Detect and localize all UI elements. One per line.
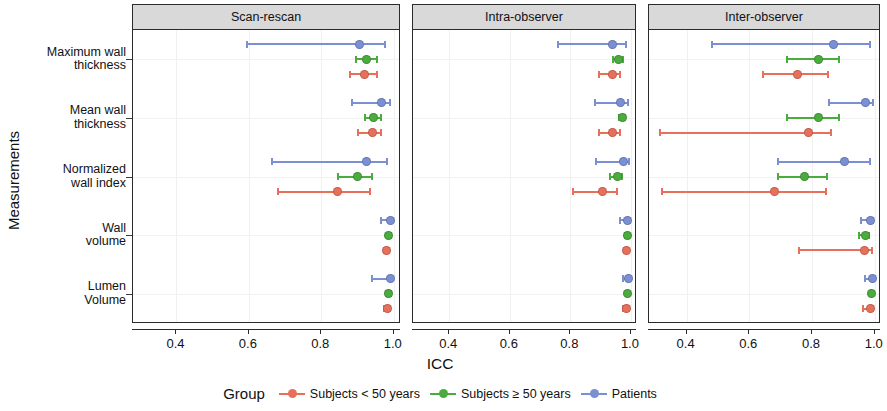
x-axis-line (132, 329, 400, 330)
data-point-marker[interactable] (622, 246, 631, 255)
confidence-interval-cap (364, 114, 366, 121)
confidence-interval-cap (777, 158, 779, 165)
data-point-marker[interactable] (829, 40, 838, 49)
confidence-interval-cap (762, 71, 764, 78)
panel-title-text: Intra-observer (485, 10, 563, 24)
data-point-marker[interactable] (384, 231, 393, 240)
data-point-marker[interactable] (793, 70, 802, 79)
data-point-marker[interactable] (384, 289, 393, 298)
data-point-marker[interactable] (814, 113, 823, 122)
y-axis-tick-label: LumenVolume (26, 280, 126, 307)
confidence-interval-cap (826, 173, 828, 180)
confidence-interval-cap (860, 217, 862, 224)
legend-key-icon (581, 389, 607, 399)
confidence-interval-cap (661, 188, 663, 195)
data-point-marker[interactable] (616, 98, 625, 107)
x-axis-tick-label: 1.0 (373, 336, 413, 351)
x-axis-tick-label: 0.6 (728, 336, 768, 351)
x-axis-line (412, 329, 636, 330)
confidence-interval-cap (838, 56, 840, 63)
data-point-marker[interactable] (377, 98, 386, 107)
confidence-interval-cap (386, 158, 388, 165)
confidence-interval-cap (711, 41, 713, 48)
data-point-marker[interactable] (619, 157, 628, 166)
confidence-interval-line (278, 191, 370, 193)
data-point-marker[interactable] (622, 304, 631, 313)
x-axis-tick-label: 0.6 (489, 336, 529, 351)
data-point-marker[interactable] (383, 304, 392, 313)
data-point-marker[interactable] (355, 40, 364, 49)
data-point-marker[interactable] (861, 98, 870, 107)
confidence-interval-cap (380, 129, 382, 136)
legend-item[interactable]: Subjects ≥ 50 years (430, 387, 571, 401)
x-axis-tick (686, 329, 687, 334)
x-axis-tick-label: 0.4 (428, 336, 468, 351)
confidence-interval-cap (380, 114, 382, 121)
x-axis-tick (748, 329, 749, 334)
data-point-marker[interactable] (362, 157, 371, 166)
confidence-interval-cap (355, 56, 357, 63)
data-point-marker[interactable] (382, 246, 391, 255)
x-axis-tick (175, 329, 176, 334)
x-axis-tick-label: 0.8 (300, 336, 340, 351)
panel-intra-observer: Intra-observer (412, 4, 636, 323)
panel-plot-area (132, 30, 400, 323)
confidence-interval-cap (371, 173, 373, 180)
data-point-marker[interactable] (386, 216, 395, 225)
data-point-marker[interactable] (608, 70, 617, 79)
x-axis-tick (448, 329, 449, 334)
confidence-interval-cap (595, 158, 597, 165)
data-point-marker[interactable] (868, 274, 877, 283)
panel-inter-observer: Inter-observer (648, 4, 880, 323)
x-axis-title-text: ICC (427, 355, 454, 372)
legend-item-label: Subjects ≥ 50 years (461, 387, 571, 401)
data-point-marker[interactable] (360, 70, 369, 79)
data-point-marker[interactable] (623, 231, 632, 240)
gridline-horizontal (133, 235, 399, 236)
confidence-interval-cap (825, 188, 827, 195)
confidence-interval-cap (376, 56, 378, 63)
gridline-horizontal (649, 177, 879, 178)
legend-key-icon (279, 389, 305, 399)
x-axis-tick (509, 329, 510, 334)
data-point-marker[interactable] (770, 187, 779, 196)
panel-plot-area (648, 30, 880, 323)
data-point-marker[interactable] (368, 128, 377, 137)
data-point-marker[interactable] (386, 274, 395, 283)
legend-item-label: Patients (612, 387, 657, 401)
data-point-marker[interactable] (333, 187, 342, 196)
data-point-marker[interactable] (840, 157, 849, 166)
legend: Group Subjects < 50 yearsSubjects ≥ 50 y… (0, 385, 880, 402)
confidence-interval-cap (598, 129, 600, 136)
data-point-marker[interactable] (623, 216, 632, 225)
data-point-marker[interactable] (613, 172, 622, 181)
data-point-marker[interactable] (861, 231, 870, 240)
data-point-marker[interactable] (608, 40, 617, 49)
gridline-horizontal (413, 59, 635, 60)
confidence-interval-cap (619, 71, 621, 78)
legend-item[interactable]: Subjects < 50 years (279, 387, 420, 401)
data-point-marker[interactable] (800, 172, 809, 181)
confidence-interval-cap (838, 114, 840, 121)
gridline-horizontal (649, 59, 879, 60)
confidence-interval-cap (371, 275, 373, 282)
panel-scan-rescan: Scan-rescan (132, 4, 400, 323)
x-axis-tick (811, 329, 812, 334)
data-point-marker[interactable] (860, 246, 869, 255)
confidence-interval-line (787, 117, 839, 119)
gridline-horizontal (649, 235, 879, 236)
confidence-interval-cap (871, 247, 873, 254)
data-point-marker[interactable] (362, 55, 371, 64)
legend-item[interactable]: Patients (581, 387, 657, 401)
data-point-marker[interactable] (598, 187, 607, 196)
confidence-interval-cap (351, 99, 353, 106)
data-point-marker[interactable] (369, 113, 378, 122)
y-axis-title: Measurements (2, 60, 26, 300)
data-point-marker[interactable] (814, 55, 823, 64)
x-axis-title: ICC (0, 355, 880, 373)
confidence-interval-cap (557, 41, 559, 48)
gridline-horizontal (649, 118, 879, 119)
legend-title: Group (223, 385, 265, 402)
data-point-marker[interactable] (608, 128, 617, 137)
data-point-marker[interactable] (353, 172, 362, 181)
